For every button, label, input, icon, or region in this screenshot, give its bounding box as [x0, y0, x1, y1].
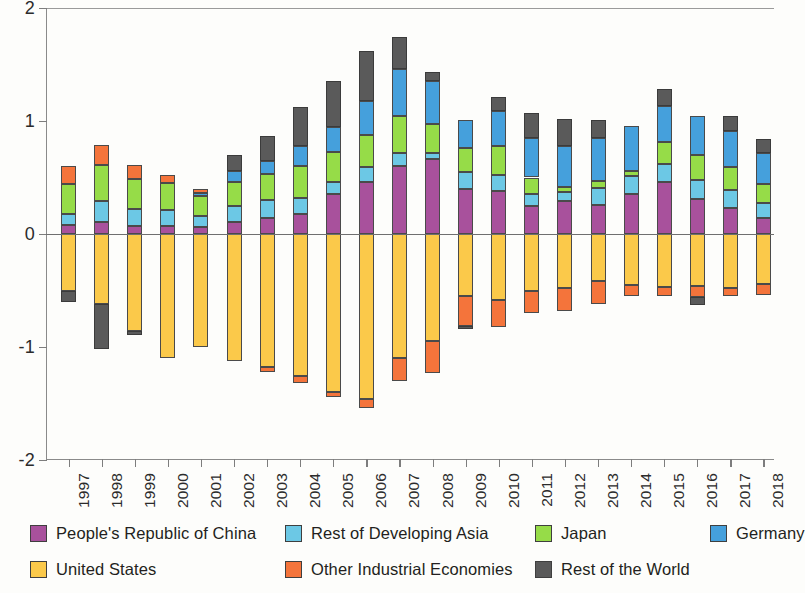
bar-segment [193, 234, 208, 347]
bar-segment [425, 234, 440, 341]
bar-segment [359, 399, 374, 408]
bar-segment [359, 234, 374, 399]
bar-segment [624, 234, 639, 285]
bar-segment [425, 124, 440, 152]
bar-segment [524, 138, 539, 178]
bar-segment [227, 234, 242, 361]
legend-item[interactable]: United States [30, 560, 156, 579]
bar-segment [94, 201, 109, 221]
x-axis-tick [433, 459, 434, 467]
bar-segment [227, 171, 242, 182]
bar-segment [657, 164, 672, 182]
legend-label: Japan [561, 524, 606, 543]
bar-segment [723, 208, 738, 234]
bar-segment [624, 126, 639, 171]
bar-segment [193, 193, 208, 195]
bar-segment [293, 146, 308, 166]
bar-segment [491, 97, 506, 111]
bar-segment [756, 284, 771, 295]
x-axis-year-label: 2006 [372, 473, 390, 508]
y-axis-tick-label: 2 [25, 0, 35, 19]
legend-item[interactable]: Japan [535, 524, 606, 543]
legend-swatch-icon [710, 525, 727, 542]
x-axis-tick [69, 459, 70, 467]
bar-segment [193, 189, 208, 194]
x-axis-tick [631, 459, 632, 467]
y-axis-tick [39, 460, 47, 461]
x-axis-year-label: 2010 [505, 473, 523, 508]
bar-segment [491, 300, 506, 327]
x-axis-year-label: 2002 [240, 473, 258, 508]
legend-item[interactable]: People's Republic of China [30, 524, 256, 543]
legend-label: Germany [736, 524, 805, 543]
x-axis-year-label: 2008 [439, 473, 457, 508]
x-axis-year-label: 2003 [273, 473, 291, 508]
y-axis-tick-label: 1 [25, 111, 35, 132]
bar-segment [591, 181, 606, 188]
bar-segment [557, 234, 572, 288]
bar-segment [690, 297, 705, 305]
x-axis-year-label: 2016 [703, 473, 721, 508]
x-axis-tick [102, 459, 103, 467]
bar-segment [458, 148, 473, 172]
legend-label: United States [56, 560, 156, 579]
bar-segment [293, 214, 308, 234]
x-axis-year-label: 2001 [207, 473, 225, 508]
bar-segment [359, 167, 374, 182]
bar-segment [591, 281, 606, 304]
bar-segment [94, 304, 109, 349]
bar-segment [127, 234, 142, 331]
bar-segment [227, 206, 242, 222]
plot-area: 210-1-2 19971998199920002001200220032004… [46, 8, 774, 460]
legend-label: Other Industrial Economies [311, 560, 513, 579]
bar-segment [557, 201, 572, 234]
bar-segment [491, 234, 506, 300]
bar-segment [160, 210, 175, 226]
x-axis-tick [135, 459, 136, 467]
x-axis-tick [730, 459, 731, 467]
bar-segment [61, 225, 76, 234]
bar-segment [524, 113, 539, 138]
x-axis-year-label: 2014 [637, 473, 655, 508]
bar-segment [557, 192, 572, 201]
legend-label: Rest of the World [561, 560, 690, 579]
legend-item[interactable]: Other Industrial Economies [285, 560, 513, 579]
bar-segment [260, 200, 275, 218]
x-axis-year-label: 1998 [108, 473, 126, 508]
legend-swatch-icon [285, 525, 302, 542]
bar-segment [458, 172, 473, 189]
bar-segment [723, 190, 738, 208]
bar-segment [293, 198, 308, 214]
bar-segment [260, 161, 275, 175]
bar-segment [260, 367, 275, 372]
bar-segment [127, 226, 142, 234]
x-axis-tick [598, 459, 599, 467]
bar-segment [458, 189, 473, 234]
bar-segment [657, 234, 672, 287]
bar-segment [458, 120, 473, 148]
y-axis-tick [39, 347, 47, 348]
bar-segment [591, 120, 606, 138]
legend-swatch-icon [535, 525, 552, 542]
legend-label: Rest of Developing Asia [311, 524, 488, 543]
bar-segment [127, 331, 142, 334]
bar-segment [94, 145, 109, 165]
x-axis-tick [466, 459, 467, 467]
bar-segment [756, 184, 771, 203]
x-axis-tick [201, 459, 202, 467]
x-axis-tick [697, 459, 698, 467]
bar-segment [61, 214, 76, 225]
legend-item[interactable]: Rest of the World [535, 560, 690, 579]
bar-segment [425, 341, 440, 373]
bar-segment [127, 209, 142, 226]
bar-segment [591, 188, 606, 205]
bar-segment [557, 146, 572, 187]
legend-item[interactable]: Rest of Developing Asia [285, 524, 488, 543]
bar-segment [326, 392, 341, 397]
bar-segment [160, 183, 175, 210]
bar-segment [293, 376, 308, 383]
bar-segment [557, 288, 572, 311]
bar-segment [657, 106, 672, 142]
legend-item[interactable]: Germany [710, 524, 805, 543]
x-axis-tick [168, 459, 169, 467]
